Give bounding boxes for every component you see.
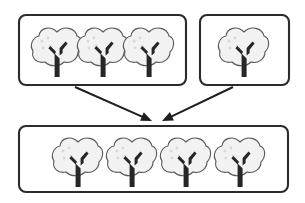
group-b-addend	[200, 15, 289, 85]
diagram-canvas	[0, 0, 305, 203]
group-a-addend	[19, 15, 186, 85]
arrow-right-line	[170, 87, 233, 117]
group-total-sum	[19, 126, 288, 192]
arrow-left	[75, 87, 152, 121]
arrow-right	[162, 87, 233, 121]
diagram-svg	[0, 0, 305, 203]
arrow-left-line	[75, 87, 144, 117]
